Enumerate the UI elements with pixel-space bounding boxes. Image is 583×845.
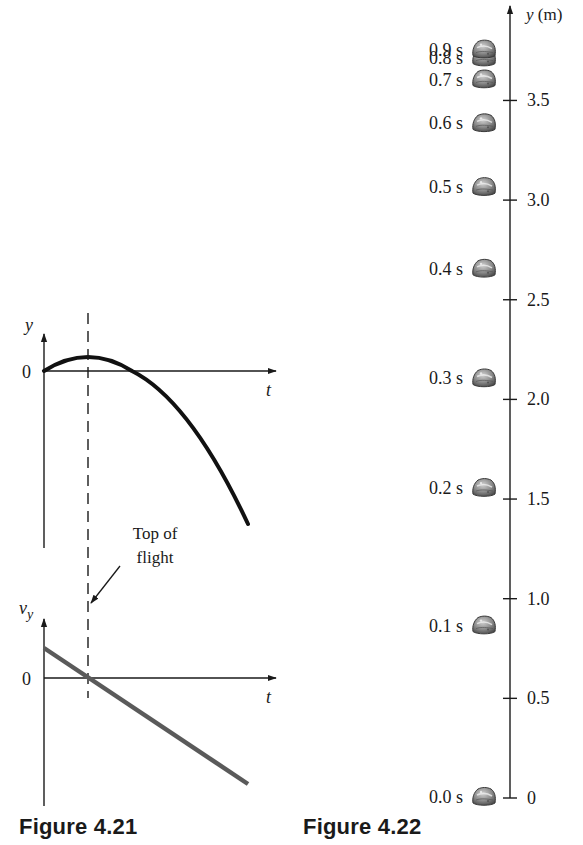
rock-icon	[473, 616, 496, 634]
velocity-time-graph: vy 0 t	[19, 598, 276, 806]
rock-icon	[473, 114, 496, 132]
axis-tick-label: 3.0	[527, 190, 550, 210]
rock-marker: 0.9 s	[429, 40, 495, 60]
t-axis-label: t	[266, 380, 272, 400]
rock-marker: 0.5 s	[429, 177, 495, 197]
t-axis-label: t	[266, 687, 272, 707]
y-axis-label: y	[23, 315, 33, 335]
rock-icon	[473, 178, 496, 196]
rock-marker: 0.6 s	[429, 113, 495, 133]
rock-marker: 0.1 s	[429, 616, 495, 636]
vy-axis-label: vy	[19, 598, 34, 622]
time-label: 0.4 s	[429, 259, 463, 279]
axis-tick-label: 0.5	[527, 688, 550, 708]
axis-tick-label: 2.0	[527, 389, 550, 409]
position-curve	[44, 357, 248, 524]
y-meter-axis-label: y (m)	[524, 5, 562, 24]
time-label: 0.5 s	[429, 177, 463, 197]
rock-icon	[473, 70, 496, 88]
rock-icon	[473, 259, 496, 277]
origin-label: 0	[22, 669, 31, 689]
rock-marker: 0.0 s	[429, 787, 495, 807]
annotation-arrow	[91, 566, 120, 603]
figure-page: y 0 t Top of flight vy 0 t y (m) 00.51.0…	[0, 0, 583, 845]
top-of-flight-annotation: Top of flight	[91, 524, 178, 603]
rock-icon	[473, 369, 496, 387]
axis-tick-label: 0	[527, 788, 536, 808]
caption-figure-4-22: Figure 4.22	[303, 814, 421, 840]
rock-marker: 0.2 s	[429, 478, 495, 498]
time-label: 0.9 s	[429, 40, 463, 60]
position-time-graph: y 0 t	[22, 315, 276, 548]
axis-tick-label: 3.5	[527, 90, 550, 110]
figure-canvas: y 0 t Top of flight vy 0 t y (m) 00.51.0…	[0, 0, 583, 845]
time-label: 0.7 s	[429, 70, 463, 90]
annotation-line-2: flight	[137, 548, 174, 567]
time-label: 0.1 s	[429, 616, 463, 636]
origin-label: 0	[22, 362, 31, 382]
caption-figure-4-21: Figure 4.21	[19, 814, 137, 840]
rock-icon	[473, 788, 496, 806]
rock-marker: 0.4 s	[429, 259, 495, 279]
rock-marker: 0.7 s	[429, 70, 495, 90]
rock-icon	[473, 40, 496, 58]
velocity-line	[44, 648, 248, 784]
axis-tick-label: 1.5	[527, 489, 550, 509]
rock-icon	[473, 479, 496, 497]
time-label: 0.3 s	[429, 368, 463, 388]
axis-tick-label: 2.5	[527, 290, 550, 310]
rock-markers: 0.0 s0.1 s0.2 s0.3 s0.4 s0.5 s0.6 s0.7 s…	[429, 40, 495, 807]
time-label: 0.2 s	[429, 478, 463, 498]
time-label: 0.6 s	[429, 113, 463, 133]
axis-tick-label: 1.0	[527, 589, 550, 609]
time-label: 0.0 s	[429, 787, 463, 807]
annotation-line-1: Top of	[133, 524, 178, 543]
rock-marker: 0.3 s	[429, 368, 495, 388]
rock-position-diagram: y (m) 00.51.01.52.02.53.03.5 0.0 s0.1 s0…	[429, 5, 562, 808]
